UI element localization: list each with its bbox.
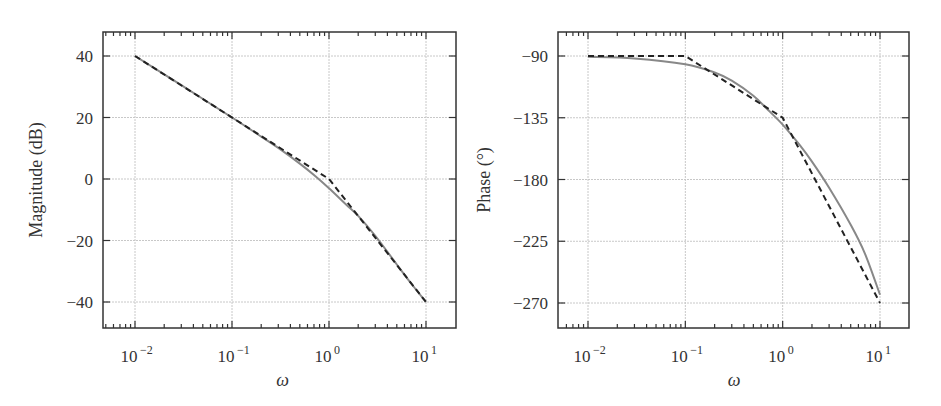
y-tick-label: −180 [513, 171, 548, 190]
y-tick-label: −135 [513, 109, 548, 128]
y-tick-label: 20 [76, 109, 93, 128]
y-tick-label: −40 [66, 293, 93, 312]
x-tick-exponent: −1 [690, 343, 703, 357]
x-tick-label: 10 [768, 347, 785, 366]
x-tick-label: 10 [671, 347, 688, 366]
x-axis-label: ω [728, 370, 741, 390]
x-axis-label: ω [276, 370, 289, 390]
axes-frame [103, 32, 456, 328]
x-tick-label: 10 [412, 347, 429, 366]
x-tick-exponent: 1 [885, 343, 891, 357]
y-tick-label: −225 [513, 232, 548, 251]
x-tick-exponent: 0 [788, 343, 794, 357]
bode-figure: 40200−20−4010−210−1100101ωMagnitude (dB)… [0, 0, 941, 406]
x-tick-exponent: 0 [334, 343, 340, 357]
x-tick-exponent: −2 [140, 343, 153, 357]
x-tick-label: 10 [218, 347, 235, 366]
x-tick-exponent: 1 [431, 343, 437, 357]
x-tick-label: 10 [574, 347, 591, 366]
y-tick-label: −270 [513, 294, 548, 313]
grid [103, 32, 456, 328]
phase-plot: −90−135−180−225−27010−210−1100101ωPhase … [474, 32, 909, 390]
exact-curve [588, 57, 880, 295]
y-axis-label: Magnitude (dB) [26, 122, 47, 237]
grid [558, 32, 909, 328]
x-tick-label: 10 [866, 347, 883, 366]
x-tick-exponent: −2 [593, 343, 606, 357]
y-tick-label: −20 [66, 232, 93, 251]
x-tick-label: 10 [121, 347, 138, 366]
y-tick-label: 0 [85, 170, 94, 189]
x-tick-exponent: −1 [237, 343, 250, 357]
x-tick-label: 10 [315, 347, 332, 366]
ticks [103, 32, 456, 328]
y-axis-label: Phase (°) [474, 147, 495, 213]
y-tick-label: 40 [76, 47, 93, 66]
magnitude-plot: 40200−20−4010−210−1100101ωMagnitude (dB) [26, 32, 456, 390]
y-tick-label: −90 [521, 47, 548, 66]
